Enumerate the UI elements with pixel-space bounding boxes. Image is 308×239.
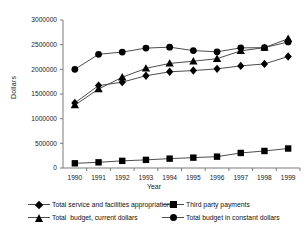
legend-item-total-service-and-facilities-appropriations: Total service and facilities appropriati… <box>28 198 174 211</box>
x-tick-label: 1991 <box>91 174 106 181</box>
data-point-diamond <box>142 72 149 80</box>
data-point-diamond <box>285 52 292 60</box>
x-tick-label: 1990 <box>68 174 83 181</box>
y-tick-label: 2000000 <box>31 66 57 73</box>
x-tick-label: 1994 <box>162 174 177 181</box>
data-point-square <box>72 160 78 166</box>
y-tick-label: 1500000 <box>31 90 57 97</box>
triangle-marker-icon <box>28 212 50 224</box>
square-marker-icon <box>162 199 184 211</box>
data-point-circle <box>285 39 292 46</box>
legend-label: Total service and facilities appropriati… <box>50 201 174 208</box>
x-tick-label: 1997 <box>233 174 248 181</box>
legend-item-total-budget-in-constant-dollars: Total budget in constant dollars <box>162 211 280 224</box>
data-point-square <box>190 154 196 160</box>
series-line <box>75 42 288 69</box>
data-point-square <box>166 155 172 161</box>
data-point-square <box>261 148 267 154</box>
data-point-circle <box>119 49 126 56</box>
data-point-square <box>238 150 244 156</box>
data-point-circle <box>261 44 268 51</box>
y-tick-label: 0 <box>53 164 57 171</box>
x-tick-label: 1992 <box>115 174 130 181</box>
x-axis-title: Year <box>0 183 308 190</box>
data-point-diamond <box>237 62 244 70</box>
legend-row-2: Total budget, current dollars Total budg… <box>0 211 308 224</box>
data-point-circle <box>214 48 221 55</box>
data-point-diamond <box>166 68 173 76</box>
data-point-square <box>143 157 149 163</box>
data-point-diamond <box>190 66 197 74</box>
circle-marker-icon <box>162 212 184 224</box>
legend-label: Third party payments <box>184 201 250 208</box>
legend-item-total-budget-current-dollars: Total budget, current dollars <box>28 211 138 224</box>
series-line <box>75 149 288 164</box>
data-point-triangle <box>71 101 79 108</box>
data-point-square <box>285 145 291 151</box>
series-group <box>71 35 293 167</box>
data-point-circle <box>95 51 102 58</box>
data-point-square <box>214 153 220 159</box>
x-tick-label: 1998 <box>257 174 272 181</box>
chart-container: Dollars 05000001000000150000020000002500… <box>0 0 308 239</box>
data-point-circle <box>237 44 244 51</box>
y-tick-label: 3000000 <box>31 16 57 23</box>
y-axis-tick-group: 0500000100000015000002000000250000030000… <box>31 16 63 171</box>
x-tick-label: 1993 <box>139 174 154 181</box>
legend-label: Total budget, current dollars <box>50 214 138 221</box>
data-point-triangle <box>118 73 126 80</box>
x-tick-label: 1999 <box>281 174 296 181</box>
data-point-circle <box>190 47 197 54</box>
data-point-circle <box>166 44 173 51</box>
data-point-diamond <box>261 60 268 68</box>
data-point-square <box>119 158 125 164</box>
y-tick-label: 2500000 <box>31 41 57 48</box>
data-point-circle <box>143 45 150 52</box>
data-point-circle <box>71 66 78 73</box>
legend-row-1: Total service and facilities appropriati… <box>0 198 308 211</box>
y-tick-label: 1000000 <box>31 115 57 122</box>
diamond-marker-icon <box>28 199 50 211</box>
plot-area: 0500000100000015000002000000250000030000… <box>0 0 308 200</box>
legend-item-third-party-payments: Third party payments <box>162 198 250 211</box>
data-point-square <box>95 159 101 165</box>
x-tick-label: 1995 <box>186 174 201 181</box>
data-point-diamond <box>213 65 220 73</box>
series-line <box>75 57 288 103</box>
x-tick-label: 1996 <box>210 174 225 181</box>
x-axis-tick-group: 1990199119921993199419951996199719981999 <box>68 168 300 181</box>
legend-label: Total budget in constant dollars <box>184 214 280 221</box>
y-tick-label: 500000 <box>35 140 57 147</box>
chart-legend: Total service and facilities appropriati… <box>0 198 308 232</box>
